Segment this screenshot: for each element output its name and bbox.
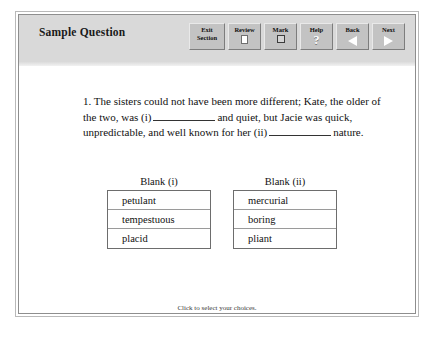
choice-tables: Blank (i) petulant tempestuous placid Bl… [107,176,337,249]
mark-button[interactable]: Mark [264,23,297,50]
exit-section-label-line2: Section [197,34,217,42]
mark-label: Mark [273,26,289,34]
blank-i-option-3[interactable]: placid [108,229,210,248]
question-mark-icon: ? [314,35,320,46]
question-text: 1. The sisters could not have been more … [83,94,383,141]
header-band: Sample Question Exit Section Review Mark… [19,15,415,66]
checkbox-icon [277,35,285,43]
blank-i-line [153,110,215,121]
page-icon [241,35,248,44]
blank-ii-table: mercurial boring pliant [233,190,337,249]
blank-ii-line [269,125,331,136]
help-button[interactable]: Help ? [300,23,333,50]
triangle-right-icon [384,36,393,46]
next-label: Next [382,26,395,34]
blank-ii-option-3[interactable]: pliant [234,229,336,248]
choice-block-blank-i: Blank (i) petulant tempestuous placid [107,176,211,249]
back-button[interactable]: Back [336,23,369,50]
test-screen: Sample Question Exit Section Review Mark… [0,0,434,339]
question-number: 1. [83,95,91,107]
blank-ii-header: Blank (ii) [233,176,337,187]
exit-section-button[interactable]: Exit Section [189,23,225,50]
blank-i-header: Blank (i) [107,176,211,187]
blank-i-option-2[interactable]: tempestuous [108,210,210,229]
question-body: 1. The sisters could not have been more … [19,66,415,313]
toolbar: Exit Section Review Mark Help ? Back [189,23,405,50]
blank-i-option-1[interactable]: petulant [108,191,210,210]
review-button[interactable]: Review [228,23,261,50]
footer-hint: Click to select your choices. [19,304,415,312]
page-title: Sample Question [39,26,125,38]
blank-ii-option-2[interactable]: boring [234,210,336,229]
blank-ii-option-1[interactable]: mercurial [234,191,336,210]
question-segment-3: nature. [333,126,363,138]
exit-section-label-line1: Exit [201,26,213,34]
review-label: Review [234,26,254,34]
blank-i-table: petulant tempestuous placid [107,190,211,249]
back-label: Back [345,26,359,34]
triangle-left-icon [348,36,357,46]
inner-frame-border: Sample Question Exit Section Review Mark… [18,14,416,314]
next-button[interactable]: Next [372,23,405,50]
choice-block-blank-ii: Blank (ii) mercurial boring pliant [233,176,337,249]
